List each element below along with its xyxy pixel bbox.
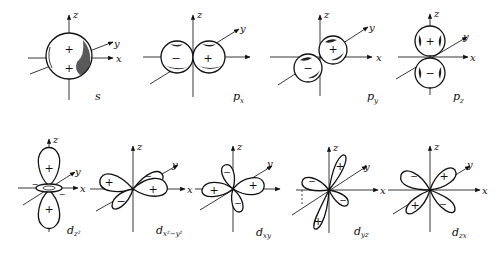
- orbital-label-py: py: [367, 90, 379, 105]
- y-axis-label: y: [239, 23, 246, 34]
- orbital-diagram: + + z y x s − + z y px: [0, 0, 501, 257]
- orbital-label-dxy: dxy: [256, 226, 272, 240]
- sign-minus: −: [59, 190, 66, 199]
- sign-plus: +: [44, 203, 53, 216]
- y-axis-label: y: [462, 31, 469, 42]
- orbital-py: − + z y x py: [270, 9, 382, 105]
- sign-plus: +: [209, 184, 218, 197]
- x-axis-label: x: [482, 185, 488, 196]
- sign-plus: +: [64, 43, 73, 56]
- z-axis-label: z: [136, 141, 143, 152]
- sign-plus: +: [313, 215, 322, 228]
- y-axis-label: y: [466, 159, 473, 170]
- sign-minus: −: [425, 67, 434, 80]
- orbital-dyz: − + + − z y x dyz: [292, 142, 386, 239]
- y-axis-label: y: [368, 22, 375, 33]
- y-axis-label: y: [363, 161, 370, 172]
- sign-minus: −: [171, 52, 180, 65]
- orbital-label-pz: pz: [453, 90, 464, 105]
- sign-minus: −: [308, 176, 316, 186]
- z-axis-label: z: [433, 8, 440, 19]
- orbital-dz2: + + − − z y x dz²: [18, 134, 86, 238]
- orbital-dxy: − + + − z y dxy: [195, 141, 280, 240]
- orbital-label-px: px: [233, 90, 244, 105]
- x-axis-label: x: [80, 183, 86, 194]
- sign-plus: +: [335, 160, 344, 173]
- orbital-pz: + − z y x pz: [396, 8, 476, 105]
- sign-minus: −: [439, 199, 447, 209]
- sign-minus: −: [410, 171, 418, 181]
- orbital-px: − + z y px: [143, 9, 250, 105]
- z-axis-label: z: [236, 141, 243, 152]
- x-axis-label: x: [380, 185, 386, 196]
- sign-plus: +: [64, 62, 73, 75]
- sign-plus: +: [148, 183, 157, 196]
- y-axis-label: y: [113, 38, 120, 49]
- sign-plus: +: [425, 35, 434, 48]
- z-axis-label: z: [196, 9, 203, 20]
- sign-plus: +: [104, 176, 113, 189]
- sign-minus: −: [144, 171, 152, 181]
- sign-minus: −: [303, 62, 312, 75]
- z-axis-label: z: [433, 141, 440, 152]
- orbital-label-s: s: [95, 90, 101, 103]
- sign-minus: −: [234, 198, 242, 208]
- x-axis-label: x: [470, 52, 476, 63]
- sign-plus: +: [439, 170, 448, 183]
- sign-minus: −: [223, 167, 231, 177]
- z-axis-label: z: [332, 142, 339, 153]
- y-axis-label: y: [171, 159, 178, 170]
- orbital-label-dz2: dz²: [67, 224, 81, 238]
- sign-minus: −: [116, 195, 125, 208]
- z-axis-label: z: [72, 9, 79, 20]
- sign-minus: −: [32, 180, 39, 189]
- sign-minus: −: [339, 195, 347, 205]
- orbital-label-dyz: dyz: [354, 225, 369, 239]
- sign-plus: +: [248, 179, 257, 192]
- sign-plus: +: [328, 43, 337, 56]
- orbital-label-dzx: dzx: [452, 226, 467, 240]
- orbital-label-dx2-y2: dx²−y²: [156, 224, 183, 238]
- z-axis-label: z: [52, 134, 59, 145]
- orbital-s: + + z y x s: [28, 9, 122, 103]
- sign-plus: +: [410, 199, 419, 212]
- sign-plus: +: [44, 162, 53, 175]
- orbital-dzx: − + + − z y x dzx: [388, 141, 488, 240]
- x-axis-label: x: [116, 53, 122, 64]
- sign-plus: +: [203, 52, 212, 65]
- y-axis-label: y: [74, 166, 81, 177]
- x-axis-label: x: [376, 52, 382, 63]
- orbital-dx2-y2: + − − + z y x dx²−y²: [90, 141, 193, 238]
- x-axis-label: x: [187, 184, 193, 195]
- y-axis-label: y: [266, 158, 273, 169]
- z-axis-label: z: [323, 9, 330, 20]
